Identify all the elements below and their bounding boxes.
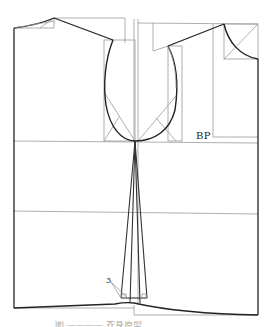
bp-box bbox=[213, 24, 258, 137]
back-neckline bbox=[14, 18, 54, 28]
front-armhole-bisector bbox=[156, 118, 176, 141]
back-neck-alt bbox=[14, 21, 54, 28]
front-armhole-box bbox=[168, 46, 182, 141]
back-shoulder-seam bbox=[54, 18, 113, 40]
back-armhole-curve bbox=[105, 40, 135, 141]
waist-line bbox=[13, 211, 258, 214]
bust-point-label: BP bbox=[196, 131, 211, 141]
dart-leg-inner-right bbox=[135, 141, 140, 303]
dart-right-angle-right bbox=[142, 294, 146, 298]
back-armhole-bisector bbox=[104, 117, 119, 141]
front-shoulder-seam bbox=[168, 24, 224, 46]
front-neck-diagonal bbox=[224, 24, 258, 59]
figure-caption: 图 ———— 衣身原型 bbox=[55, 321, 142, 327]
back-neck-box bbox=[14, 18, 54, 28]
front-shoulder-guide bbox=[153, 23, 168, 51]
front-hem-line bbox=[134, 303, 258, 315]
back-hem-line bbox=[14, 303, 134, 308]
dart-leg-right bbox=[135, 141, 147, 298]
side-dart bbox=[111, 141, 147, 303]
front-armhole-curve bbox=[135, 46, 177, 141]
dart-intake-label: 3 bbox=[106, 277, 111, 285]
pattern-canvas bbox=[0, 0, 271, 327]
